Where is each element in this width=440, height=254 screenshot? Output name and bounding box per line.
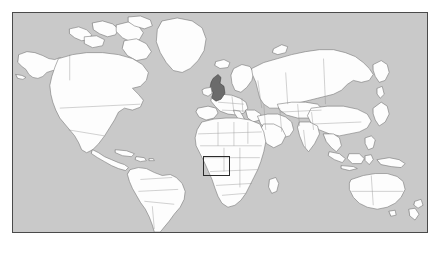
world-map-svg[interactable] <box>13 13 427 232</box>
world-map-frame[interactable]: West Africa / Gulf of Guinea <box>12 12 428 233</box>
page-title: World Map <box>0 0 1 1</box>
land-puerto-rico <box>149 159 154 161</box>
map-screenshot: World Map <box>0 0 440 254</box>
